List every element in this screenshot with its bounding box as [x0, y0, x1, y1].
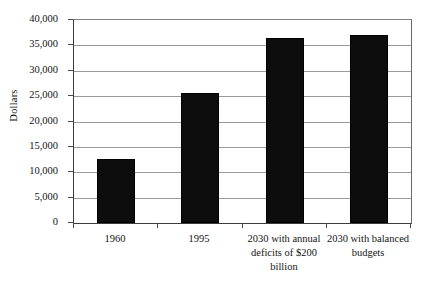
bar	[181, 93, 219, 223]
plot-area	[73, 19, 412, 224]
x-axis-tick-label-line: 2030 with balanced	[323, 232, 413, 246]
y-axis-tick-label: 40,000	[0, 14, 58, 24]
x-axis-tick-mark	[157, 223, 158, 228]
x-axis-tick-label-line: 1995	[154, 232, 244, 246]
x-axis-tick-label-line: 1960	[70, 232, 160, 246]
x-axis-tick-mark	[410, 223, 411, 228]
x-axis-tick-label-group: 196019952030 with annualdeficits of $200…	[73, 232, 412, 280]
y-axis-tick-label-group: 40,00035,00030,00025,00020,00015,00010,0…	[0, 0, 68, 282]
y-axis-tick-label: 5,000	[0, 192, 58, 202]
y-axis-tick-label: 30,000	[0, 65, 58, 75]
x-axis-tick-mark	[242, 223, 243, 228]
x-axis-tick-label-line: 2030 with annual	[239, 232, 329, 246]
x-axis-tick-mark	[326, 223, 327, 228]
x-axis-tick-label: 2030 with annualdeficits of $200billion	[239, 232, 329, 274]
x-axis-tick-label-line: deficits of $200	[239, 246, 329, 260]
x-axis-tick-mark	[73, 223, 74, 228]
y-axis-tick-label: 10,000	[0, 166, 58, 176]
bars-group	[74, 20, 411, 223]
bar	[350, 35, 388, 223]
y-axis-tick-label: 20,000	[0, 116, 58, 126]
x-axis-tick-label: 2030 with balancedbudgets	[323, 232, 413, 260]
bar-chart-figure: Dollars 40,00035,00030,00025,00020,00015…	[0, 0, 424, 282]
x-axis-tick-mark-group	[73, 223, 412, 229]
y-axis-tick-label: 35,000	[0, 39, 58, 49]
bar	[97, 159, 135, 223]
y-axis-tick-label: 15,000	[0, 141, 58, 151]
x-axis-tick-label: 1960	[70, 232, 160, 246]
x-axis-tick-label-line: budgets	[323, 246, 413, 260]
bar	[266, 38, 304, 223]
x-axis-tick-label: 1995	[154, 232, 244, 246]
x-axis-tick-label-line: billion	[239, 260, 329, 274]
y-axis-tick-label: 25,000	[0, 90, 58, 100]
y-axis-tick-label: 0	[0, 217, 58, 227]
